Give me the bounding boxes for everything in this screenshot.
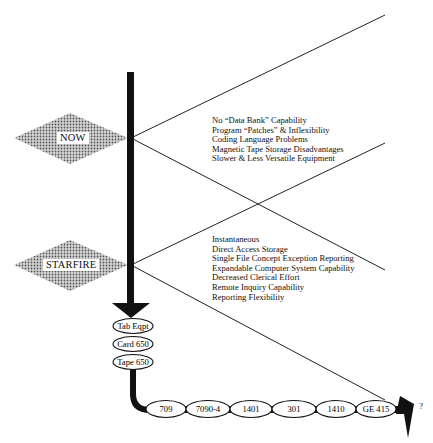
timeline-lower-bar (130, 368, 136, 396)
starfire-benefits-list: Instantaneous Direct Access Storage Sing… (212, 235, 355, 302)
diagram-canvas: Tab Eqpt Card 650 Tape 650 709 7090-4 14… (0, 0, 433, 443)
stage-tape-650: Tape 650 (117, 357, 149, 367)
stage-1410: 1410 (327, 404, 344, 414)
stage-1401: 1401 (242, 404, 259, 414)
now-label: NOW (57, 132, 89, 144)
timeline-right-arrowhead (396, 396, 414, 438)
now-issues-list: No “Data Bank” Capability Program “Patch… (212, 116, 344, 164)
horizontal-stage-ellipses: 709 7090-4 1401 301 1410 GE 415 (146, 401, 396, 418)
timeline-down-arrowhead (112, 303, 150, 318)
stage-card-650: Card 650 (117, 339, 149, 349)
starfire-label: STARFIRE (43, 259, 99, 271)
future-question-mark: ? (419, 401, 423, 411)
stage-7090-4: 7090-4 (196, 404, 221, 414)
now-issue: Slower & Less Versatile Equipment (212, 154, 344, 164)
stage-tab-eqpt: Tab Eqpt (117, 321, 149, 331)
stage-709: 709 (160, 404, 173, 414)
starfire-benefit: Reporting Flexibility (212, 293, 355, 303)
stage-ge-415: GE 415 (363, 404, 390, 414)
timeline-vertical-bar (127, 72, 134, 306)
vertical-stage-ellipses: Tab Eqpt Card 650 Tape 650 (113, 319, 153, 370)
stage-301: 301 (288, 404, 301, 414)
